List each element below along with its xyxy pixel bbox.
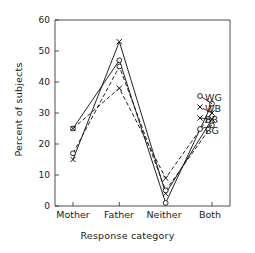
y-tick-label-60: 60 — [28, 15, 50, 25]
chart-figure: 0 10 20 30 40 50 60 Mother Father Neithe… — [0, 0, 255, 253]
chart-series-wg — [71, 58, 215, 205]
y-tick-label-40: 40 — [28, 77, 50, 87]
x-axis-title: Response category — [0, 230, 255, 241]
legend-label-bb: BB — [205, 114, 218, 125]
y-tick-label-50: 50 — [28, 46, 50, 56]
chart-series-bg — [71, 64, 215, 193]
x-category-label-mother: Mother — [47, 209, 99, 220]
legend-label-bg: BG — [205, 125, 219, 136]
y-tick-label-30: 30 — [28, 108, 50, 118]
chart-axes — [55, 20, 230, 206]
x-category-label-neither: Neither — [138, 209, 190, 220]
y-tick-label-20: 20 — [28, 139, 50, 149]
chart-series-layer — [70, 39, 214, 205]
y-tick-label-10: 10 — [28, 170, 50, 180]
legend-label-wb: WB — [205, 103, 221, 114]
legend-label-wg: WG — [205, 92, 222, 103]
y-axis-title: Percent of subjects — [13, 50, 24, 170]
x-category-label-both: Both — [184, 209, 236, 220]
